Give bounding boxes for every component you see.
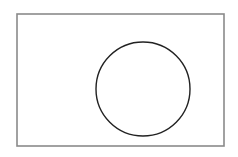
universal-set-rectangle [17, 14, 224, 146]
set-circle [96, 42, 190, 136]
venn-diagram-canvas [0, 0, 238, 157]
